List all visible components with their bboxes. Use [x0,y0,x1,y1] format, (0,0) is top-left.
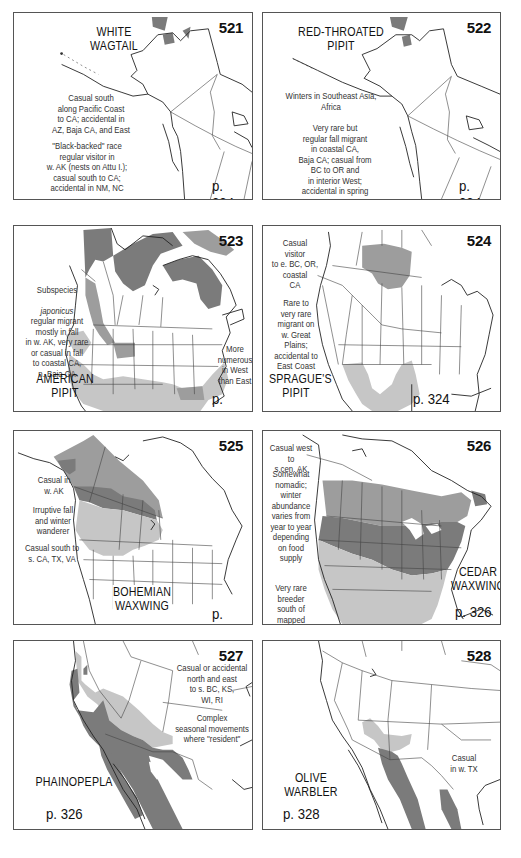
map-number: 524 [467,232,491,249]
range-map-panel-528: 528 Casual in w. TX OLIVE WARBLER p. 328 [262,640,501,830]
species-name-line1: OLIVE [281,771,340,785]
species-name-line2: WAXWING [112,599,171,613]
species-name-line1: BOHEMIAN [112,585,171,599]
species-name: RED-THROATED PIPIT [292,25,390,53]
map-number: 528 [467,647,491,664]
species-name-line1: AMERICAN [33,372,97,386]
range-note: Very rare breeder south of mapped range [268,583,314,625]
species-name-line1: SPRAGUE'S [269,372,323,386]
page-reference: p. 324 [413,390,450,407]
range-note-line: regular migrant mostly in fall in w. AK,… [22,316,93,379]
range-map-panel-524: 524 Casual visitor to e. BC, OR, coastal… [262,225,501,412]
page-reference: p. 326 [212,605,247,625]
range-map-panel-525: 525 Casual in w. AK Irruptive fall and w… [13,430,253,625]
species-name-line1: WHITE [73,25,155,39]
species-name-line2: WAGTAIL [73,39,155,53]
range-note: More numerous in West than East [215,344,254,386]
range-note: Casual south to s. CA, TX, VA [22,543,81,564]
southwest-map-graphic [263,641,500,829]
range-note: Casual south along Pacific Coast to CA; … [38,93,145,135]
species-name-line1: CEDAR [451,565,501,579]
map-number: 525 [219,437,243,454]
species-name-line2: PIPIT [292,39,390,53]
species-name-line2: PIPIT [33,386,97,400]
range-map-panel-521: WHITE WAGTAIL 521 Casual south along Pac… [13,12,253,200]
page-reference: p. 324 [212,177,247,200]
page-reference: p. 324 [459,177,495,200]
range-note: Very rare but regular fall migrant in co… [286,123,384,197]
range-note: Somewhat nomadic; winter abundance varie… [270,469,313,564]
range-map-panel-527: 527 Casual or accidental north and east … [13,640,253,830]
range-map-panel-526: 526 Casual west to s.cen. AK Somewhat no… [262,430,501,625]
range-note: Irruptive fall and winter wanderer [26,505,80,537]
range-note: Rare to very rare migrant on w. Great Pl… [269,298,323,372]
species-name-line1: RED-THROATED [292,25,390,39]
range-note: Casual or accidental north and east to s… [171,663,253,705]
species-name-line2: WARBLER [281,785,340,799]
species-name: AMERICAN PIPIT [33,372,97,400]
subspecies-name: japonicus [41,305,74,316]
map-number: 522 [467,19,491,36]
page-reference: p. 326 [455,603,492,620]
range-note: Casual in w. TX [444,753,485,774]
species-name-line2: PIPIT [269,386,323,400]
range-note: Casual in w. AK [28,475,80,496]
page-reference: p. 324 [212,390,247,412]
range-map-panel-523: 523 Subspecies japonicus regular migrant… [13,225,253,412]
species-name: OLIVE WARBLER [281,771,340,799]
species-name: BOHEMIAN WAXWING [112,585,171,613]
map-number: 521 [219,19,243,36]
range-note: "Black-backed" race regular visitor in w… [34,141,141,194]
range-note-line: Subspecies [22,285,93,296]
map-number: 523 [219,232,243,249]
page-reference: p. 326 [46,805,83,822]
range-map-panel-522: RED-THROATED PIPIT 522 Winters in Southe… [262,12,501,200]
page-reference: p. 328 [283,805,320,822]
species-name-line1: PHAINOPEPLA [33,775,115,789]
range-note: Casual visitor to e. BC, OR, coastal CA [270,238,319,291]
range-note: Winters in Southeast Asia, Africa [275,91,387,112]
range-note: Complex seasonal movements where "reside… [173,713,252,745]
species-name: CEDAR WAXWING [451,565,501,593]
species-name: PHAINOPEPLA [33,775,115,789]
species-name: WHITE WAGTAIL [73,25,155,53]
species-name-line2: WAXWING [451,579,501,593]
species-name: SPRAGUE'S PIPIT [269,372,323,400]
map-number: 526 [467,437,491,454]
